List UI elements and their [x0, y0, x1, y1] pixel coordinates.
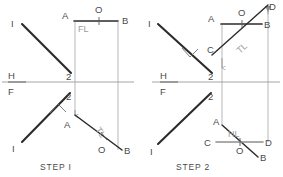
label-d-front-step2: D — [265, 137, 272, 148]
label-o-front-step1: O — [98, 144, 105, 155]
label-c-top-step2: C — [207, 44, 214, 55]
label-b-top-step2: B — [264, 19, 270, 30]
label-b-top-step1: B — [122, 15, 128, 26]
label-1-front-step2: I — [150, 146, 153, 157]
label-d-top-step2: D — [269, 1, 276, 12]
label-tl-step1: TL — [93, 125, 107, 139]
labels-step2: H F I 2 A O B C D TL I 2 A O B C D HL ST… — [148, 1, 276, 172]
label-h-step2: H — [160, 70, 167, 81]
label-fl-step1: FL — [78, 24, 89, 34]
label-h-step1: H — [8, 70, 15, 81]
label-f-step2: F — [160, 86, 166, 97]
label-2-front-step2: 2 — [208, 91, 213, 102]
label-o-top-step1: O — [95, 4, 102, 15]
label-b-front-step2: B — [260, 152, 266, 163]
label-f-step1: F — [8, 86, 14, 97]
label-2-top-step1: 2 — [66, 71, 71, 82]
drawing-canvas: H F I 2 A O B FL I 2 A O B TL STEP I H F… — [0, 0, 283, 177]
label-a-top-step1: A — [62, 10, 69, 21]
label-a-top-step2: A — [208, 13, 215, 24]
label-2-top-step2: 2 — [208, 71, 213, 82]
label-c-front-step2: C — [204, 137, 211, 148]
label-a-front-step2: A — [213, 116, 220, 127]
caption-step1: STEP I — [40, 162, 72, 172]
labels-step1: H F I 2 A O B FL I 2 A O B TL STEP I — [8, 4, 130, 172]
label-tl-step2: TL — [235, 41, 250, 55]
label-1-top-step2: I — [148, 18, 151, 29]
label-a-front-step1: A — [64, 119, 71, 130]
label-2-front-step1: 2 — [66, 91, 71, 102]
label-b-front-step1: B — [124, 145, 130, 156]
label-layer: H F I 2 A O B FL I 2 A O B TL STEP I H F… — [0, 0, 283, 177]
caption-step2: STEP 2 — [176, 162, 210, 172]
label-1-front-step1: I — [12, 143, 15, 154]
label-o-front-step2: O — [236, 145, 243, 156]
label-o-top-step2: O — [238, 7, 245, 18]
label-1-top-step1: I — [11, 18, 14, 29]
label-hl-step2: HL — [228, 129, 240, 139]
